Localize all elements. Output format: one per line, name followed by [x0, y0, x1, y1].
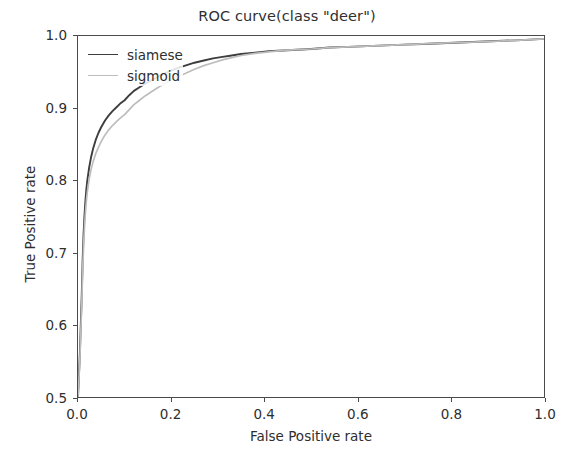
x-tick-mark — [77, 398, 78, 402]
y-tick-label: 0.7 — [23, 245, 67, 261]
x-tick-label: 0.8 — [428, 406, 474, 422]
x-axis-label: False Positive rate — [77, 428, 545, 444]
y-tick-label: 0.5 — [23, 390, 67, 406]
plot-area — [77, 35, 545, 398]
y-tick-mark — [73, 180, 77, 181]
x-tick-mark — [451, 398, 452, 402]
roc-curve-figure: ROC curve(class "deer") True Positive ra… — [0, 0, 574, 458]
legend-item-siamese: siamese — [88, 44, 183, 65]
x-tick-label: 0.4 — [241, 406, 287, 422]
y-tick-mark — [73, 325, 77, 326]
y-tick-label: 0.8 — [23, 172, 67, 188]
x-tick-label: 1.0 — [522, 406, 568, 422]
roc-curve-sigmoid — [78, 39, 544, 397]
x-tick-label: 0.2 — [148, 406, 194, 422]
y-tick-label: 0.6 — [23, 317, 67, 333]
x-tick-label: 0.6 — [335, 406, 381, 422]
y-tick-mark — [73, 108, 77, 109]
y-axis-label: True Positive rate — [22, 124, 38, 324]
roc-curve-siamese — [78, 39, 544, 397]
chart-title: ROC curve(class "deer") — [0, 8, 574, 24]
x-tick-mark — [171, 398, 172, 402]
legend-line-swatch-sigmoid — [88, 75, 118, 76]
y-tick-label: 0.9 — [23, 100, 67, 116]
x-tick-mark — [264, 398, 265, 402]
x-tick-mark — [358, 398, 359, 402]
x-tick-label: 0.0 — [54, 406, 100, 422]
legend-label-siamese: siamese — [127, 47, 183, 63]
y-tick-label: 1.0 — [23, 27, 67, 43]
x-tick-mark — [545, 398, 546, 402]
chart-legend: siamese sigmoid — [88, 44, 183, 86]
roc-curves-svg — [78, 36, 544, 397]
legend-item-sigmoid: sigmoid — [88, 65, 183, 86]
y-tick-mark — [73, 35, 77, 36]
y-tick-mark — [73, 253, 77, 254]
legend-line-swatch-siamese — [88, 54, 118, 55]
legend-label-sigmoid: sigmoid — [127, 68, 180, 84]
